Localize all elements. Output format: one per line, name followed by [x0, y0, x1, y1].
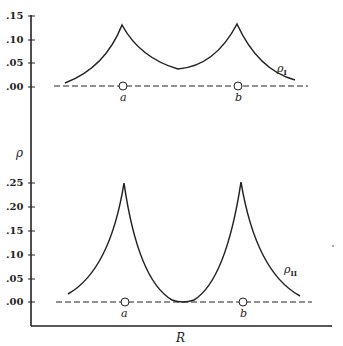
tick-label: .00: [6, 81, 23, 92]
stray-dot: [332, 245, 334, 247]
top-curve-label: ρI: [276, 62, 287, 77]
bottom-curve-rho-II: [68, 182, 300, 302]
top-point-b-label: b: [235, 91, 242, 104]
tick-label: .15: [6, 10, 23, 21]
tick-label: .10: [6, 34, 23, 45]
bottom-curve-label: ρII: [283, 263, 297, 278]
top-point-a-marker: [119, 82, 127, 90]
chart-canvas: .15 .10 .05 .00 ρ .25 .20 .15 .10 .05 .0…: [0, 0, 343, 346]
top-point-b-marker: [234, 82, 242, 90]
y-axis-label: ρ: [15, 146, 23, 160]
top-point-a-label: a: [120, 91, 127, 104]
tick-label: .25: [6, 177, 23, 188]
top-curve-rho-I: [65, 24, 295, 83]
tick-label: .00: [6, 296, 23, 307]
tick-label: .05: [6, 273, 23, 284]
tick-label: .10: [6, 249, 23, 260]
x-axis-label: R: [175, 331, 185, 345]
bottom-point-b-marker: [239, 298, 247, 306]
bottom-point-a-marker: [121, 298, 129, 306]
tick-label: .15: [6, 225, 23, 236]
tick-label: .05: [6, 57, 23, 68]
bottom-point-b-label: b: [240, 307, 247, 320]
bottom-point-a-label: a: [121, 307, 128, 320]
tick-label: .20: [6, 201, 23, 212]
